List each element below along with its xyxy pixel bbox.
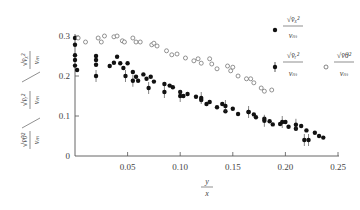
data-point-filled <box>94 74 98 78</box>
data-point-open <box>115 34 119 38</box>
data-point-open <box>165 49 169 53</box>
data-point-filled <box>280 120 284 124</box>
x-axis-label-numerator: y <box>204 177 209 186</box>
data-point-filled <box>267 119 271 123</box>
data-point-filled <box>73 63 77 67</box>
data-point-filled <box>115 55 119 59</box>
ylabel-r-numerator: √v̄ᵣ² <box>20 93 29 106</box>
x-tick-label: 0.20 <box>278 162 294 172</box>
x-tick-label: 0.10 <box>172 162 188 172</box>
data-point-filled <box>162 82 166 86</box>
data-point-filled <box>304 128 308 132</box>
data-point-filled <box>286 125 290 129</box>
data-point-filled <box>131 70 135 74</box>
data-point-open <box>231 65 235 69</box>
svg-text:vₘ: vₘ <box>340 69 349 78</box>
data-point-open <box>102 34 106 38</box>
scatter-chart: 00.10.20.3 0.050.100.150.200.25 y x √v̄θ… <box>0 0 360 210</box>
data-point-open <box>96 36 100 40</box>
data-point-filled <box>185 92 189 96</box>
data-point-filled <box>294 123 298 127</box>
data-point-filled <box>141 72 145 76</box>
data-point-open <box>226 64 230 68</box>
data-point-open <box>99 40 103 44</box>
data-point-filled <box>236 112 240 116</box>
data-point-open <box>236 74 240 78</box>
data-point-filled <box>108 64 112 68</box>
data-point-open <box>192 59 196 63</box>
data-point-filled <box>223 104 227 108</box>
x-tick-label: 0.15 <box>225 162 241 172</box>
data-point-open <box>210 62 214 66</box>
data-point-filled <box>125 61 129 65</box>
data-point-filled <box>321 135 325 139</box>
data-point-open <box>122 40 126 44</box>
data-point-filled <box>231 107 235 111</box>
data-point-filled <box>149 75 153 79</box>
data-point-filled <box>194 95 198 99</box>
ylabel-x-denominator: vₘ <box>32 56 41 65</box>
data-point-open <box>215 67 219 71</box>
data-point-filled <box>136 79 140 83</box>
data-point-open <box>208 57 212 61</box>
data-point-open <box>259 86 263 90</box>
data-point-filled <box>207 100 211 104</box>
data-point-filled <box>131 79 135 83</box>
legend-item-x: √v̄ₓ² vₘ <box>273 15 303 40</box>
data-point-filled <box>94 58 98 62</box>
data-point-open <box>262 89 266 93</box>
data-point-open <box>183 56 187 60</box>
data-point-filled <box>144 77 148 81</box>
data-point-filled <box>73 43 77 47</box>
data-point-open <box>131 36 135 40</box>
svg-text:√v̄ₓ²: √v̄ₓ² <box>287 15 300 24</box>
data-point-filled <box>94 54 98 58</box>
x-tick-label: 0.05 <box>120 162 136 172</box>
data-point-filled <box>262 119 266 123</box>
data-point-open <box>244 77 248 81</box>
svg-text:vₘ: vₘ <box>289 31 298 40</box>
data-point-filled <box>162 90 166 94</box>
y-tick-label: 0.3 <box>59 31 71 41</box>
data-point-filled <box>299 124 303 128</box>
data-point-filled <box>112 61 116 65</box>
data-point-filled <box>271 122 275 126</box>
data-point-filled <box>73 53 77 57</box>
data-point-filled <box>134 75 138 79</box>
data-point-open <box>252 81 256 85</box>
data-point-filled <box>317 134 321 138</box>
ylabel-x-numerator: √v̄ₓ² <box>20 53 29 66</box>
data-point-open <box>76 36 80 40</box>
y-tick-label: 0.2 <box>59 71 70 81</box>
data-point-filled <box>306 138 310 142</box>
ylabel-theta-numerator: √v̄θ² <box>20 132 29 147</box>
ylabel-theta-denominator: vₘ <box>32 136 41 145</box>
data-point-filled <box>246 110 250 114</box>
x-tick-label: 0.25 <box>330 162 346 172</box>
data-point-open <box>199 61 203 65</box>
svg-text:√v̄ᵣ²: √v̄ᵣ² <box>287 51 300 60</box>
svg-text:vₘ: vₘ <box>289 69 298 78</box>
x-ticks: 0.050.100.150.200.25 <box>120 152 347 172</box>
data-point-filled <box>75 68 79 72</box>
data-point-open <box>155 44 159 48</box>
data-point-open <box>270 88 274 92</box>
svg-text:√v̄θ²: √v̄θ² <box>337 51 352 60</box>
legend: √v̄ₓ² vₘ √v̄ᵣ² vₘ √v̄θ² vₘ <box>273 15 354 78</box>
data-point-open <box>175 52 179 56</box>
data-point-filled <box>171 85 175 89</box>
data-point-filled <box>302 138 306 142</box>
legend-item-r: √v̄ᵣ² vₘ <box>273 51 303 78</box>
data-point-filled <box>254 115 258 119</box>
data-point-filled <box>215 105 219 109</box>
x-axis-label-denominator: x <box>204 189 209 198</box>
y-tick-label: 0 <box>66 151 71 161</box>
data-point-filled <box>94 63 98 67</box>
data-point-open <box>138 40 142 44</box>
data-point-filled <box>73 58 77 62</box>
data-point-filled <box>123 74 127 78</box>
legend-item-theta: √v̄θ² vₘ <box>324 51 354 78</box>
y-tick-label: 0.1 <box>59 111 70 121</box>
data-point-filled <box>152 79 156 83</box>
data-point-filled <box>313 131 317 135</box>
